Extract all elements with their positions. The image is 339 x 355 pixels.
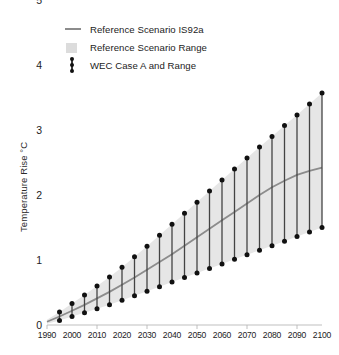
legend-label: Reference Scenario IS92a	[90, 24, 204, 35]
y-axis-tick-label: 0	[22, 320, 42, 330]
y-axis-tick-label: 1	[22, 255, 42, 265]
y-axis-tick-label: 4	[22, 60, 42, 70]
legend-item-wec-case-a-and-range: WEC Case A and Range	[62, 56, 207, 74]
chart-legend: Reference Scenario IS92a Reference Scena…	[62, 20, 207, 74]
wec-case-a-errorbars	[57, 90, 325, 323]
y-axis-tick-label: 5	[22, 0, 42, 5]
errorbar-marker-icon	[62, 56, 84, 74]
y-axis-tick-label: 3	[22, 125, 42, 135]
axis-lines	[47, 325, 322, 329]
legend-label: WEC Case A and Range	[90, 60, 196, 71]
legend-item-reference-scenario-is92a: Reference Scenario IS92a	[62, 20, 207, 38]
reference-scenario-range-band	[47, 93, 322, 324]
legend-item-reference-scenario-range: Reference Scenario Range	[62, 38, 207, 56]
temperature-rise-chart: 012345 199020002010202020302040205020602…	[0, 0, 339, 355]
y-axis-title: Temperature Rise °C	[18, 142, 29, 232]
legend-label: Reference Scenario Range	[90, 42, 207, 53]
line-marker-icon	[62, 20, 84, 38]
x-axis-tick-label: 2100	[305, 331, 339, 340]
square-marker-icon	[62, 38, 84, 56]
